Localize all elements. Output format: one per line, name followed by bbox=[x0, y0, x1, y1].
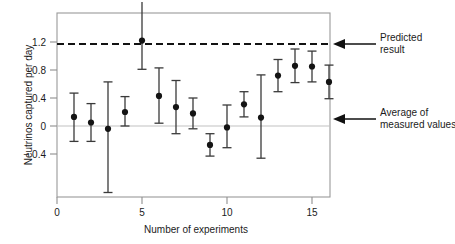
data-point-3 bbox=[104, 82, 113, 193]
data-point-12 bbox=[257, 75, 266, 158]
data-points-layer bbox=[70, 2, 334, 193]
data-point-4 bbox=[121, 97, 130, 126]
data-point-marker bbox=[207, 142, 213, 148]
data-point-marker bbox=[326, 79, 332, 85]
average-arrow-head bbox=[333, 114, 345, 124]
data-point-11 bbox=[240, 92, 249, 117]
y-axis-title: Neutrinos captured per day bbox=[23, 45, 34, 166]
data-point-9 bbox=[206, 134, 215, 156]
chart-figure: 1.2 0.8 0.4 0 − 0.4 0 5 10 15 Number of … bbox=[0, 0, 455, 244]
data-point-marker bbox=[88, 119, 94, 125]
data-point-14 bbox=[291, 49, 300, 83]
data-point-15 bbox=[308, 51, 317, 82]
data-point-13 bbox=[274, 60, 283, 92]
y-tick-label-1.2: 1.2 bbox=[32, 37, 46, 48]
data-point-marker bbox=[275, 73, 281, 79]
data-point-2 bbox=[87, 104, 96, 142]
predicted-result-arrow-head bbox=[333, 39, 345, 49]
annotation-predicted-result: Predicted result bbox=[333, 32, 422, 55]
data-point-marker bbox=[122, 109, 128, 115]
y-tick-label-0: 0 bbox=[40, 121, 46, 132]
x-axis-title: Number of experiments bbox=[144, 224, 248, 235]
y-axis-ticks bbox=[50, 42, 57, 154]
data-point-marker bbox=[224, 124, 230, 130]
annotation-average-of-measured-values: Average of measured values bbox=[333, 107, 455, 130]
x-tick-label-5: 5 bbox=[139, 207, 145, 218]
data-point-16 bbox=[325, 65, 334, 99]
data-point-marker bbox=[105, 126, 111, 132]
data-point-6 bbox=[155, 68, 164, 123]
data-point-marker bbox=[156, 93, 162, 99]
data-point-marker bbox=[292, 63, 298, 69]
data-point-marker bbox=[241, 101, 247, 107]
data-point-1 bbox=[70, 93, 79, 141]
x-tick-label-0: 0 bbox=[54, 207, 60, 218]
data-point-8 bbox=[189, 98, 198, 129]
data-point-marker bbox=[139, 38, 145, 44]
y-tick-label-0.8: 0.8 bbox=[32, 65, 46, 76]
average-label-line2: measured values bbox=[380, 119, 455, 130]
data-point-marker bbox=[71, 114, 77, 120]
data-point-5 bbox=[138, 2, 147, 69]
data-point-marker bbox=[258, 115, 264, 121]
predicted-result-label-line1: Predicted bbox=[380, 32, 422, 43]
data-point-marker bbox=[190, 110, 196, 116]
data-point-marker bbox=[173, 104, 179, 110]
x-axis-ticks bbox=[57, 197, 312, 204]
data-point-marker bbox=[309, 63, 315, 69]
x-tick-label-10: 10 bbox=[221, 207, 233, 218]
average-label-line1: Average of bbox=[380, 107, 428, 118]
neutrino-experiments-scatter-chart: 1.2 0.8 0.4 0 − 0.4 0 5 10 15 Number of … bbox=[0, 0, 455, 244]
predicted-result-label-line2: result bbox=[380, 44, 405, 55]
x-tick-label-15: 15 bbox=[306, 207, 318, 218]
y-tick-label-0.4: 0.4 bbox=[32, 93, 46, 104]
